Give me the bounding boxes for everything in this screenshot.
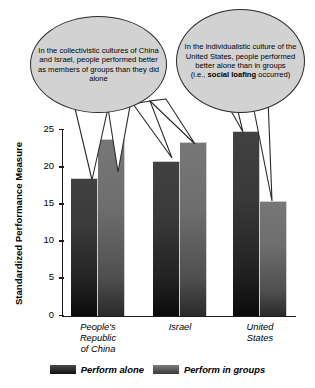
bar-chart-figure: In the collectivistic cultures of China …	[0, 0, 315, 388]
callout-right-text: In the individualistic culture of the Un…	[177, 42, 304, 80]
legend-swatch-groups	[153, 365, 179, 374]
callout-bubble-collectivistic: In the collectivistic cultures of China …	[30, 16, 167, 113]
legend-swatch-alone	[50, 365, 76, 374]
legend-item-perform-in-groups: Perform in groups	[153, 364, 265, 375]
chart-legend: Perform alone Perform in groups	[0, 364, 315, 375]
legend-item-perform-alone: Perform alone	[50, 364, 144, 375]
legend-label-alone: Perform alone	[81, 364, 144, 375]
legend-label-groups: Perform in groups	[184, 364, 265, 375]
callout-bold-term: social loafing	[208, 70, 257, 79]
callout-bubble-individualistic: In the individualistic culture of the Un…	[176, 9, 305, 113]
callout-left-text: In the collectivistic cultures of China …	[31, 46, 166, 84]
